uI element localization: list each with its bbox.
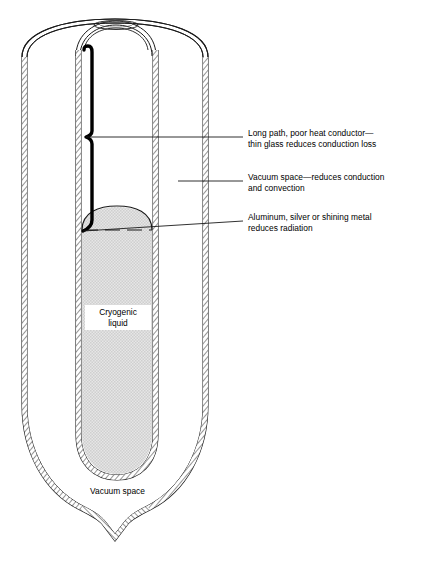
- callout-conduction-path: Long path, poor heat conductor— thin gla…: [248, 128, 376, 150]
- dewar-diagram: [0, 0, 437, 566]
- thick-silver-line: [83, 46, 92, 231]
- outer-wall-hatch-bottom: [80, 506, 150, 541]
- mouth-ellipse-inner: [99, 21, 133, 27]
- cryogenic-liquid-fill: [82, 206, 152, 474]
- label-cryogenic-liquid: Cryogenic liquid: [85, 305, 151, 330]
- neck-outer-arc: [76, 21, 156, 56]
- dewar-figure: Long path, poor heat conductor— thin gla…: [0, 0, 437, 566]
- vessel-rim: [22, 19, 208, 57]
- callout-vacuum-space: Vacuum space—reduces conduction and conv…: [248, 172, 384, 194]
- liquid-body: [82, 207, 152, 474]
- callout-silvered-surface: Aluminum, silver or shining metal reduce…: [248, 212, 372, 234]
- silvered-conduction-path: [83, 46, 92, 231]
- label-vacuum-space-bottom: Vacuum space: [70, 486, 165, 497]
- outer-wall-hatch-left: [22, 57, 83, 510]
